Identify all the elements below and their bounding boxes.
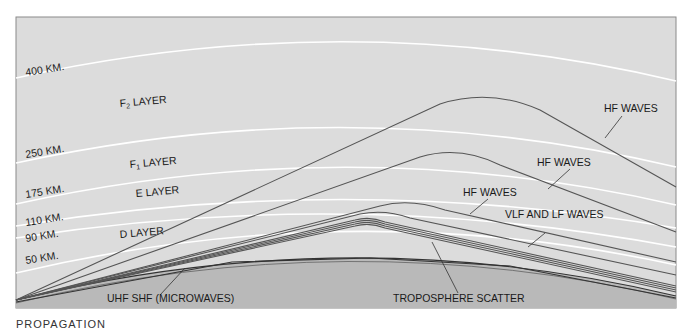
- figure-caption: PROPAGATION: [16, 318, 106, 330]
- label-hf-waves-e: HF WAVES: [463, 186, 517, 198]
- label-hf-waves-f2: HF WAVES: [604, 102, 658, 114]
- label-vlf-lf-waves: VLF AND LF WAVES: [505, 208, 604, 220]
- label-uhf-shf: UHF SHF (MICROWAVES): [107, 292, 234, 304]
- label-hf-waves-f1: HF WAVES: [537, 156, 591, 168]
- label-troposphere-scatter: TROPOSPHERE SCATTER: [393, 292, 525, 304]
